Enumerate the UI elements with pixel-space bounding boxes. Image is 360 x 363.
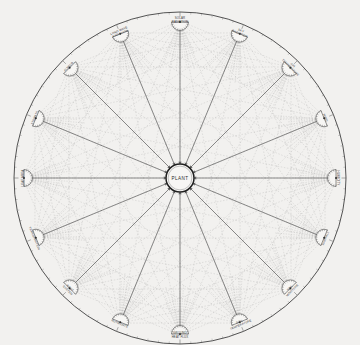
web-chord bbox=[69, 33, 240, 289]
rim-tick-minor bbox=[271, 40, 272, 42]
rim-tick-minor bbox=[327, 105, 329, 106]
perimeter-node-3[interactable]: WIND bbox=[316, 110, 329, 126]
node-label-line: RADIATION bbox=[172, 20, 189, 24]
rim-tick-minor bbox=[252, 325, 253, 327]
rim-tick-minor bbox=[97, 320, 98, 322]
node-label-4: HUMIDITY bbox=[336, 171, 340, 186]
rim-tick-minor bbox=[71, 301, 72, 303]
rim-tick-minor bbox=[79, 46, 80, 48]
spoke-13[interactable] bbox=[36, 118, 166, 172]
perimeter-node-7[interactable]: SOILTEMPERATURE bbox=[228, 314, 252, 331]
web-chord bbox=[120, 67, 291, 323]
spoke-6[interactable] bbox=[191, 189, 290, 288]
spoke-1[interactable] bbox=[186, 34, 240, 164]
spoke-2[interactable] bbox=[191, 68, 290, 167]
perimeter-node-4[interactable]: HUMIDITY bbox=[328, 170, 340, 187]
rim-tick-minor bbox=[252, 29, 253, 31]
rim-tick-minor bbox=[316, 86, 318, 87]
rim-tick-minor bbox=[310, 77, 312, 78]
spoke-14[interactable] bbox=[70, 68, 169, 167]
web-chord bbox=[180, 21, 325, 118]
rim-tick-minor bbox=[31, 105, 33, 106]
spoke-5[interactable] bbox=[194, 184, 324, 238]
rim-tick-minor bbox=[71, 53, 72, 55]
rim-tick-minor bbox=[36, 95, 38, 96]
rim-tick-major bbox=[63, 61, 66, 64]
figure-canvas: SOLARRADIATIONSKYRADIATIONAIRTEMPERATURE… bbox=[0, 0, 360, 345]
rim-tick-major bbox=[63, 292, 66, 295]
node-label-8: GROUNDHEAT FLUX bbox=[172, 331, 189, 338]
spoke-7[interactable] bbox=[186, 192, 240, 322]
web-chord bbox=[180, 21, 325, 238]
rim-tick-minor bbox=[303, 286, 305, 287]
spoke-15[interactable] bbox=[120, 34, 174, 164]
spoke-11[interactable] bbox=[36, 184, 166, 238]
perimeter-node-11[interactable]: TRANSPIRATION bbox=[28, 226, 44, 250]
perimeter-node-9[interactable]: NUTRIENTS bbox=[111, 314, 129, 329]
perimeter-node-13[interactable]: STOMATA bbox=[30, 110, 44, 126]
rim-tick-minor bbox=[288, 301, 289, 303]
rim-tick-minor bbox=[55, 69, 57, 70]
rim-tick-minor bbox=[262, 320, 263, 322]
perimeter-node-12[interactable]: LEAF AREA bbox=[21, 170, 33, 187]
rim-tick-minor bbox=[48, 278, 50, 279]
rim-tick-minor bbox=[88, 314, 89, 316]
web-chord bbox=[23, 178, 120, 323]
rim-tick-minor bbox=[316, 269, 318, 270]
web-chord bbox=[69, 67, 240, 323]
rim-tick-minor bbox=[310, 278, 312, 279]
rim-tick-minor bbox=[280, 46, 281, 48]
rim-tick-major bbox=[329, 240, 333, 242]
rim-tick-minor bbox=[322, 95, 324, 96]
web-chord bbox=[120, 33, 291, 289]
rim-tick-minor bbox=[280, 308, 281, 310]
rim-tick-minor bbox=[107, 325, 108, 327]
web-chord bbox=[23, 178, 240, 323]
web-chord bbox=[69, 33, 240, 67]
rim-tick-minor bbox=[88, 40, 89, 42]
hub-label: PLANT bbox=[171, 176, 188, 181]
node-label-0: SOLARRADIATION bbox=[172, 16, 189, 23]
node-label-line: HUMIDITY bbox=[336, 171, 340, 186]
hub-layer: PLANT bbox=[166, 164, 194, 192]
rim-tick-minor bbox=[303, 69, 305, 70]
rim-tick-minor bbox=[322, 260, 324, 261]
web-chord bbox=[35, 118, 180, 335]
perimeter-node-2[interactable]: AIRTEMPERATURE bbox=[281, 56, 302, 77]
spoke-3[interactable] bbox=[194, 118, 324, 172]
web-chord bbox=[120, 33, 337, 178]
node-label-line: HEAT FLUX bbox=[172, 335, 189, 339]
perimeter-node-8[interactable]: GROUNDHEAT FLUX bbox=[172, 326, 189, 339]
rim-tick-major bbox=[242, 327, 244, 331]
rim-tick-minor bbox=[48, 77, 50, 78]
rim-tick-minor bbox=[42, 269, 44, 270]
network-diagram: SOLARRADIATIONSKYRADIATIONAIRTEMPERATURE… bbox=[0, 0, 360, 345]
rim-tick-major bbox=[27, 114, 31, 116]
web-chord bbox=[120, 178, 337, 323]
rim-tick-minor bbox=[31, 250, 33, 251]
rim-tick-minor bbox=[79, 308, 80, 310]
rim-tick-major bbox=[27, 240, 31, 242]
web-chord bbox=[69, 118, 325, 289]
node-label-line: LEAF AREA bbox=[21, 170, 25, 187]
web-chord bbox=[69, 289, 240, 323]
web-chord bbox=[240, 33, 337, 178]
rim-tick-major bbox=[329, 114, 333, 116]
perimeter-node-0[interactable]: SOLARRADIATION bbox=[172, 16, 189, 30]
spoke-9[interactable] bbox=[120, 192, 174, 322]
rim-tick-minor bbox=[271, 314, 272, 316]
web-chord bbox=[291, 118, 325, 289]
web-chord bbox=[69, 67, 325, 238]
rim-tick-minor bbox=[55, 286, 57, 287]
node-label-12: LEAF AREA bbox=[21, 170, 25, 187]
spoke-10[interactable] bbox=[70, 189, 169, 288]
rim-tick-minor bbox=[262, 34, 263, 36]
web-chord bbox=[180, 238, 325, 335]
perimeter-node-15[interactable]: LONG WAVERADIATION bbox=[110, 25, 130, 42]
web-chord bbox=[35, 67, 291, 238]
rim-tick-minor bbox=[107, 29, 108, 31]
perimeter-node-5[interactable]: RAINFALL bbox=[316, 229, 331, 246]
web-chord bbox=[35, 118, 291, 289]
rim-tick-major bbox=[116, 327, 118, 331]
web-chord bbox=[23, 33, 240, 178]
